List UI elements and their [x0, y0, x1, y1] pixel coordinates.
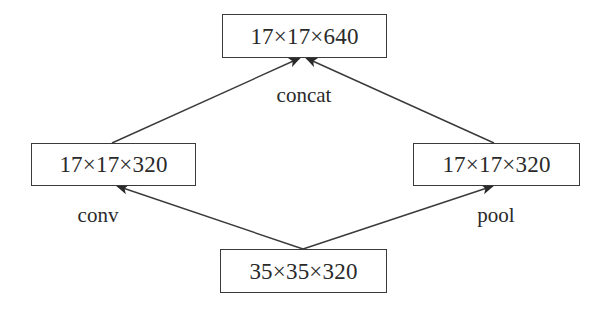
diagram-canvas: 17×17×640 17×17×320 17×17×320 35×35×320 … [0, 0, 604, 310]
edge-pool-to-concat [306, 58, 494, 143]
edge-conv-to-concat [112, 58, 300, 143]
node-output-17x17x640: 17×17×640 [222, 14, 387, 58]
node-input-text: 35×35×320 [249, 260, 357, 283]
edge-input-to-conv [117, 186, 303, 249]
node-conv-17x17x320: 17×17×320 [31, 143, 196, 186]
label-conv: conv [78, 205, 119, 226]
node-pool-17x17x320: 17×17×320 [413, 143, 580, 186]
node-conv-text: 17×17×320 [59, 153, 167, 176]
edge-input-to-pool [303, 186, 493, 249]
label-pool: pool [477, 205, 514, 226]
node-output-text: 17×17×640 [250, 25, 358, 48]
node-pool-text: 17×17×320 [442, 153, 550, 176]
node-input-35x35x320: 35×35×320 [220, 249, 387, 293]
label-concat: concat [277, 85, 332, 106]
